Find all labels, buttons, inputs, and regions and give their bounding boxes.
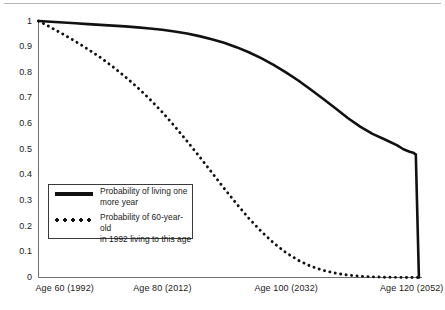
y-tick-label: 0.6: [6, 118, 32, 128]
plot-canvas: [0, 0, 445, 310]
dotted-line-icon: [55, 218, 93, 222]
y-tick-label: 0.9: [6, 41, 32, 51]
y-tick-label: 1: [6, 16, 32, 26]
legend-entry-surviving-to-age: Probability of 60-year-old in 1992 livin…: [49, 213, 192, 239]
x-tick-label: Age 120 (2052): [380, 283, 443, 293]
y-tick-label: 0.2: [6, 221, 32, 231]
y-tick-label: 0.1: [6, 246, 32, 256]
x-tick-label: Age 80 (2012): [133, 283, 191, 293]
chart-legend: Probability of living one more year Prob…: [48, 184, 193, 239]
legend-label: Probability of 60-year-old in 1992 livin…: [100, 212, 192, 245]
y-tick-label: 0.3: [6, 195, 32, 205]
y-tick-label: 0.5: [6, 144, 32, 154]
legend-label: Probability of living one more year: [100, 186, 187, 208]
series-line-probability-of-living-one-more-year: [39, 21, 419, 278]
y-tick-label: 0.4: [6, 169, 32, 179]
legend-entry-living-one-more-year: Probability of living one more year: [49, 187, 192, 213]
y-tick-label: 0.8: [6, 67, 32, 77]
y-tick-label: 0: [6, 272, 32, 282]
axes: [39, 21, 423, 278]
series-group: [39, 21, 419, 278]
solid-line-icon: [55, 192, 93, 196]
x-tick-label: Age 100 (2032): [254, 283, 317, 293]
series-line-probability-of-surviving-to-age: [39, 21, 419, 278]
x-tick-label: Age 60 (1992): [36, 283, 94, 293]
y-tick-label: 0.7: [6, 92, 32, 102]
chart-figure: 00.10.20.30.40.50.60.70.80.91 Age 60 (19…: [0, 0, 445, 310]
